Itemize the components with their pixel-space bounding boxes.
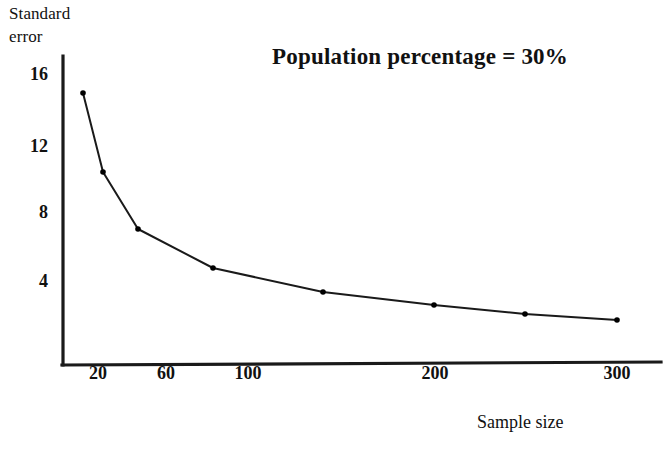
data-point (210, 265, 216, 271)
data-point (522, 311, 528, 317)
data-point (80, 90, 86, 96)
data-point (320, 289, 326, 295)
chart-figure: Standard error Population percentage = 3… (0, 0, 666, 450)
data-series-line (83, 93, 617, 320)
data-point (614, 317, 620, 323)
data-point (135, 226, 141, 232)
data-point (431, 302, 437, 308)
data-point (100, 169, 106, 175)
x-axis-line (62, 362, 661, 365)
data-series-markers (80, 90, 620, 323)
plot-area (0, 0, 666, 450)
